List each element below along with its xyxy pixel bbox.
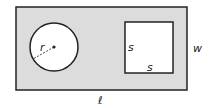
square-side-bottom-label: s bbox=[147, 61, 153, 74]
width-label: w bbox=[193, 42, 202, 55]
geometry-diagram: r s s w ℓ bbox=[0, 0, 209, 108]
length-label: ℓ bbox=[97, 94, 103, 107]
square-side-left-label: s bbox=[128, 41, 134, 54]
